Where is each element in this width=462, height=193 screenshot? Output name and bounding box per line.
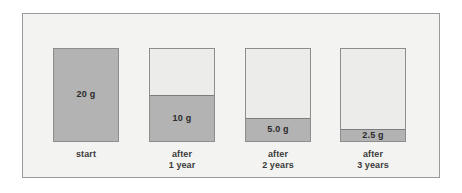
decay-column-after-2-years: 5.0 g after 2 years bbox=[245, 48, 311, 171]
bar-start: 20 g bbox=[53, 48, 119, 142]
bar-start-value-label: 20 g bbox=[54, 90, 118, 99]
figure-frame: 20 g start 10 g after 1 year 5.0 g bbox=[22, 13, 440, 178]
bar-after-3-years: 2.5 g bbox=[340, 48, 406, 142]
bar-after-2-years-value-label: 5.0 g bbox=[246, 125, 310, 134]
caption-line: start bbox=[53, 149, 119, 160]
bar-after-1-year-caption: after 1 year bbox=[149, 149, 215, 171]
bar-after-2-years: 5.0 g bbox=[245, 48, 311, 142]
caption-line: after bbox=[149, 149, 215, 160]
bar-after-3-years-value-label: 2.5 g bbox=[341, 131, 405, 140]
decay-figure-root: 20 g start 10 g after 1 year 5.0 g bbox=[0, 0, 462, 193]
decay-column-after-1-year: 10 g after 1 year bbox=[149, 48, 215, 171]
caption-line: after bbox=[245, 149, 311, 160]
decay-column-start: 20 g start bbox=[53, 48, 119, 160]
bar-after-2-years-caption: after 2 years bbox=[245, 149, 311, 171]
caption-line: 3 years bbox=[340, 160, 406, 171]
caption-line: 2 years bbox=[245, 160, 311, 171]
caption-line: 1 year bbox=[149, 160, 215, 171]
bar-after-1-year-value-label: 10 g bbox=[150, 114, 214, 123]
caption-line: after bbox=[340, 149, 406, 160]
decay-column-after-3-years: 2.5 g after 3 years bbox=[340, 48, 406, 171]
bar-after-3-years-caption: after 3 years bbox=[340, 149, 406, 171]
bar-start-caption: start bbox=[53, 149, 119, 160]
bar-after-1-year: 10 g bbox=[149, 48, 215, 142]
